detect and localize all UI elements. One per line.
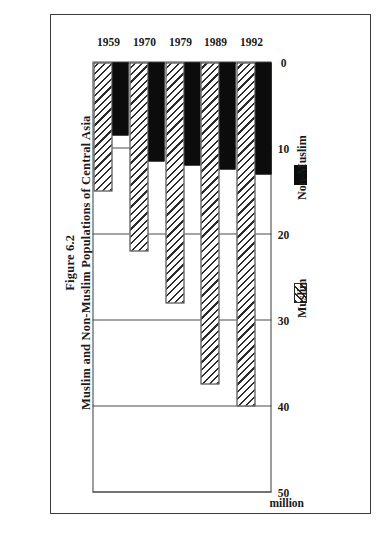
chart-legend: Non-Muslim Muslim	[294, 165, 364, 355]
legend-label-muslim: Muslim	[295, 279, 310, 318]
axis-unit-label: million	[269, 496, 304, 508]
bar-muslim-1959	[93, 62, 112, 191]
bar-muslim-1989	[200, 62, 219, 385]
bar-muslim-1970	[129, 62, 148, 251]
chart-plot-rotated: 50403020100 19591970197919891992 million	[78, 32, 301, 492]
bar-non-muslim-1959	[112, 62, 128, 135]
bar-muslim-1992	[236, 62, 255, 406]
axis-tick-label-20: 20	[270, 228, 296, 240]
bar-non-muslim-1992	[255, 62, 271, 174]
axis-tick-label-30: 30	[270, 314, 296, 326]
figure-frame: Figure 6.2 Muslim and Non-Muslim Populat…	[50, 14, 371, 514]
gridline-50	[92, 491, 271, 492]
bar-non-muslim-1979	[184, 62, 200, 165]
chart-canvas: 50403020100 19591970197919891992 million	[78, 32, 301, 492]
category-label-1979: 1979	[163, 35, 197, 47]
axis-tick-label-10: 10	[270, 142, 296, 154]
category-label-1989: 1989	[198, 35, 232, 47]
figure-number: Figure 6.2	[63, 98, 78, 428]
bar-muslim-1979	[165, 62, 184, 303]
bar-non-muslim-1970	[148, 62, 164, 161]
category-label-1959: 1959	[91, 35, 125, 47]
legend-label-non-muslim: Non-Muslim	[295, 135, 310, 200]
category-label-1992: 1992	[234, 35, 268, 47]
bar-non-muslim-1989	[219, 62, 235, 170]
axis-tick-label-0: 0	[270, 56, 296, 68]
category-label-1970: 1970	[127, 35, 161, 47]
axis-tick-label-40: 40	[270, 400, 296, 412]
